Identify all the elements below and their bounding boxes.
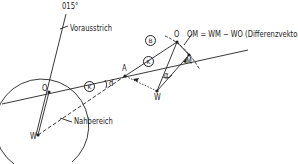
- diagram-canvas: [0, 0, 298, 164]
- arrow-icon: [133, 78, 139, 82]
- point-W-start: [36, 133, 39, 136]
- circle-B: B: [145, 35, 156, 46]
- nahbereich-label: Nahbereich: [74, 118, 113, 126]
- vorausstrich-label: Vorausstrich: [70, 25, 112, 33]
- heading-label: 015°: [62, 3, 78, 11]
- leader-vorausstrich: [60, 26, 68, 29]
- point-O-start: [47, 90, 50, 93]
- point-W-start-label: W: [30, 133, 37, 141]
- heading-line: [36, 14, 66, 135]
- own-track: [38, 92, 49, 135]
- alpha-label: α: [164, 72, 168, 80]
- point-W-end-label: W: [154, 94, 161, 102]
- arc: [165, 36, 200, 70]
- vector-WM: [157, 55, 189, 91]
- dotted-line-W-A: [125, 76, 157, 91]
- circle-K-lower: K: [84, 81, 95, 92]
- point-O-end-label: O: [174, 31, 179, 39]
- d-label: d: [109, 80, 113, 88]
- point-A: [123, 74, 126, 77]
- point-O-start-label: O: [42, 85, 47, 93]
- point-M-label: M: [186, 58, 192, 66]
- formula-label: OM = WM − WO (Differenzvektor): [187, 31, 298, 39]
- circle-K-upper: K: [143, 56, 154, 67]
- leader-nahbereich: [60, 118, 72, 122]
- point-A-label: A: [122, 65, 127, 73]
- point-O-end: [175, 40, 178, 43]
